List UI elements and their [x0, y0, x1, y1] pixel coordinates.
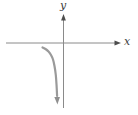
- function-graph-figure: y x: [0, 0, 138, 115]
- y-axis-label: y: [57, 0, 69, 11]
- plot-canvas: [0, 0, 138, 115]
- x-axis-label: x: [124, 36, 136, 47]
